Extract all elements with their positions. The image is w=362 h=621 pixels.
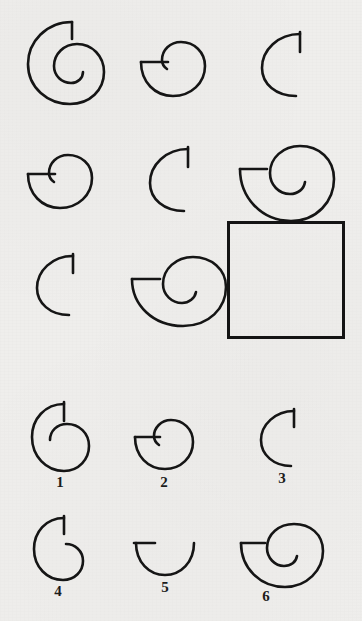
matrix-cell-r1c1[interactable] [22,14,118,110]
matrix-cell-r1c3[interactable] [256,26,318,100]
spiral-glyph [236,521,328,591]
spiral-glyph [28,399,92,475]
arc-glyph [31,248,89,318]
matrix-cell-r3c1[interactable] [31,248,89,318]
option-3[interactable]: 3 [256,404,308,470]
spiral-glyph [30,513,86,583]
arc-glyph [131,538,199,578]
matrix-cell-r2c2[interactable] [144,141,206,215]
arc-glyph [256,404,308,470]
option-1[interactable]: 1 [28,399,92,475]
spiral-glyph [235,143,339,225]
spiral-glyph [127,253,231,329]
matrix-cell-r1c2[interactable] [137,38,211,100]
spiral-glyph [131,417,197,473]
puzzle-page: 1 2 3 4 [0,0,362,621]
matrix-cell-r3c2[interactable] [127,253,231,329]
matrix-cell-r2c1[interactable] [24,152,98,212]
option-1-label: 1 [14,474,106,491]
option-5-label: 5 [124,579,206,596]
option-6[interactable]: 6 [236,521,328,591]
spiral-glyph [22,14,118,110]
option-5[interactable]: 5 [131,538,199,578]
spiral-glyph [24,152,98,212]
option-6-label: 6 [236,588,296,605]
option-2[interactable]: 2 [131,417,197,473]
option-4-label: 4 [14,583,102,600]
spiral-glyph [137,38,211,100]
matrix-cell-r2c3[interactable] [235,143,339,225]
empty-answer-box[interactable] [227,221,345,339]
arc-glyph [256,26,318,100]
arc-glyph [144,141,206,215]
option-3-label: 3 [244,470,320,487]
option-4[interactable]: 4 [30,513,86,583]
option-2-label: 2 [124,474,204,491]
